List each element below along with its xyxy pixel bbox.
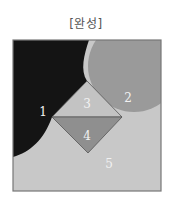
region-label-3: 3 <box>83 97 91 111</box>
puzzle-figure: 1 2 3 4 5 <box>0 0 172 198</box>
region-label-1: 1 <box>39 105 47 119</box>
region-label-4: 4 <box>83 129 91 143</box>
region-label-2: 2 <box>124 91 132 105</box>
region-label-5: 5 <box>105 157 113 171</box>
